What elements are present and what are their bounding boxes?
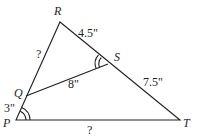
point-label-S: S (114, 50, 120, 64)
point-label-P: P (2, 116, 11, 130)
segment-label-RQ: ? (36, 47, 41, 61)
segment-label-RS: 4.5" (78, 26, 98, 40)
segment-label-PT: ? (87, 123, 92, 137)
segment-label-QS: 8" (68, 77, 79, 91)
segment-label-ST: 7.5" (143, 75, 163, 89)
point-label-Q: Q (14, 86, 23, 100)
point-label-R: R (53, 4, 62, 18)
triangle-PRT (16, 22, 180, 120)
point-label-T: T (183, 116, 191, 130)
segment-label-PQ: 3" (4, 101, 15, 115)
angle-mark-P (20, 108, 30, 121)
triangle-diagram: R 4.5" ? S 8" 7.5" Q 3" P T ? (0, 0, 204, 138)
